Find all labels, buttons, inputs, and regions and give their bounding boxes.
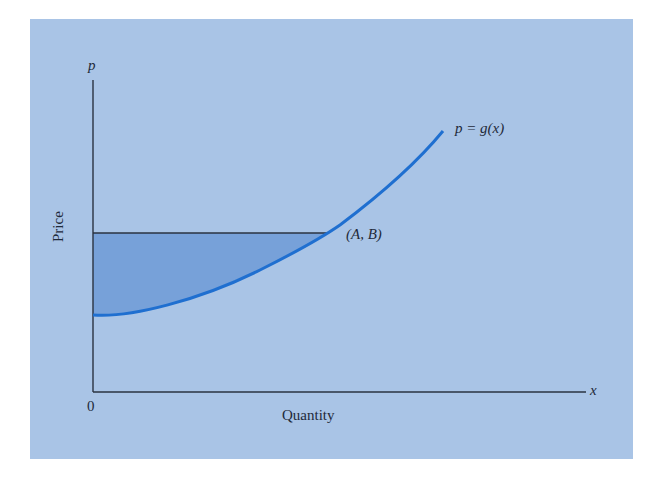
y-axis-label: Price bbox=[50, 211, 67, 242]
curve-label: p = g(x) bbox=[455, 120, 504, 137]
origin-label: 0 bbox=[87, 398, 95, 415]
x-axis-symbol: x bbox=[590, 382, 597, 399]
y-axis-symbol: p bbox=[88, 57, 96, 74]
point-label: (A, B) bbox=[346, 226, 382, 243]
x-axis-label: Quantity bbox=[282, 407, 335, 424]
shaded-region bbox=[93, 233, 327, 315]
